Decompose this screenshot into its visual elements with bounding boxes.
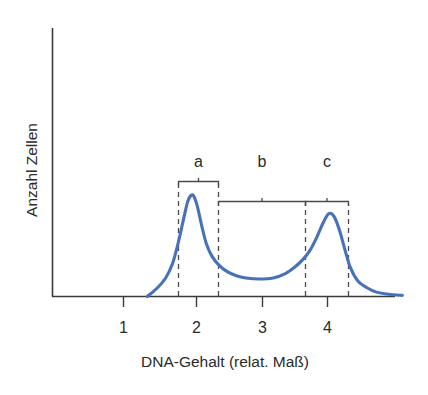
bracket-a bbox=[179, 182, 219, 187]
bracket-label-c: c bbox=[323, 153, 331, 170]
bracket-label-a: a bbox=[194, 153, 203, 170]
x-axis-title: DNA-Gehalt (relat. Maß) bbox=[141, 353, 309, 370]
chart-canvas: 1 2 3 4 DNA-Gehalt (relat. Maß) Anzahl Z… bbox=[0, 0, 428, 395]
bracket-c bbox=[306, 202, 349, 207]
x-tick-labels: 1 2 3 4 bbox=[119, 319, 332, 336]
dna-histogram-curve bbox=[147, 195, 402, 297]
axis-group bbox=[52, 28, 395, 297]
dna-content-histogram-figure: 1 2 3 4 DNA-Gehalt (relat. Maß) Anzahl Z… bbox=[0, 0, 428, 395]
bracket-labels-group: a b c bbox=[194, 153, 331, 170]
x-tick-label-3: 3 bbox=[258, 319, 267, 336]
y-axis-title: Anzahl Zellen bbox=[23, 123, 40, 217]
x-tick-label-2: 2 bbox=[192, 319, 201, 336]
x-tick-label-4: 4 bbox=[323, 319, 332, 336]
bracket-b bbox=[219, 202, 306, 207]
bracket-group bbox=[179, 178, 349, 206]
x-tick-label-1: 1 bbox=[119, 319, 128, 336]
bracket-label-b: b bbox=[258, 153, 267, 170]
x-tick-marks bbox=[124, 297, 328, 308]
